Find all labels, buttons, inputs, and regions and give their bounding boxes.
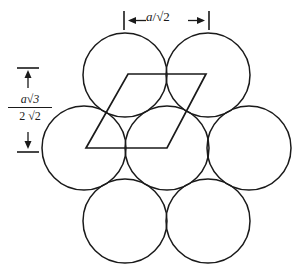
- arrow-right-icon: [188, 17, 205, 24]
- sphere-middle-right: [207, 106, 291, 190]
- horizontal-dimension-radical: √2: [156, 9, 170, 24]
- vertical-dimension-numerator: a√3: [8, 92, 52, 108]
- arrow-down-icon: [25, 132, 32, 149]
- arrow-up-icon: [25, 70, 32, 88]
- sphere-bottom-right: [166, 179, 250, 263]
- sphere-top-right: [166, 33, 250, 117]
- horizontal-dimension-label: a/√2: [146, 10, 170, 23]
- vertical-dimension-label: a√3 2 √2: [8, 92, 52, 123]
- close-packing-figure: a/√2 a√3 2 √2: [0, 0, 298, 274]
- figure-canvas: [0, 0, 298, 274]
- arrow-left-icon: [128, 17, 146, 24]
- vertical-dimension-denominator: 2 √2: [8, 108, 52, 123]
- sphere-bottom-left: [83, 179, 167, 263]
- sphere-top-left: [83, 33, 167, 117]
